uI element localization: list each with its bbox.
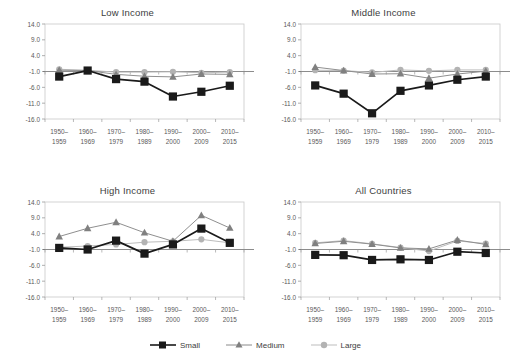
x-axis-tick-label: 2000– [448, 306, 466, 313]
y-axis-tick-label: -11.0 [282, 278, 297, 285]
data-point [198, 211, 205, 218]
data-point [425, 81, 433, 89]
x-axis-tick-label: 2009 [450, 138, 465, 145]
data-point [426, 68, 432, 74]
y-axis-tick-label: 4.0 [31, 230, 40, 237]
y-axis-tick-label: -11.0 [282, 100, 297, 107]
panel-middle-income: Middle Income 14.09.04.0-1.0-6.0-11.0-16… [256, 2, 511, 174]
x-axis-tick-label: 1960– [79, 128, 97, 135]
x-axis-tick-label: 1980– [136, 306, 154, 313]
x-axis-tick-label: 2000 [166, 316, 181, 323]
plot-area: 14.09.04.0-1.0-6.0-11.0-16.01950–1959196… [256, 180, 511, 352]
x-axis-tick-label: 1959 [52, 138, 67, 145]
data-point [311, 81, 319, 89]
y-axis-tick-label: -16.0 [25, 116, 40, 123]
y-axis-tick-label: 9.0 [287, 36, 296, 43]
chart-legend: Small Medium Large [0, 334, 511, 356]
x-axis-tick-label: 1979 [365, 138, 380, 145]
x-axis-tick-label: 2000– [448, 128, 466, 135]
x-axis-tick-label: 1980– [392, 128, 410, 135]
x-axis-tick-label: 1989 [137, 138, 152, 145]
x-axis-tick-label: 1990– [420, 306, 438, 313]
data-point [112, 75, 120, 83]
data-point [197, 225, 205, 233]
y-axis-tick-label: 14.0 [284, 199, 297, 206]
x-axis-tick-label: 1970– [107, 306, 125, 313]
legend-marker-triangle-icon [226, 340, 252, 350]
y-axis-tick-label: -6.0 [285, 84, 296, 91]
x-axis-tick-label: 1979 [109, 316, 124, 323]
y-axis-tick-label: -1.0 [29, 246, 40, 253]
data-point [482, 249, 490, 257]
y-axis-tick-label: -11.0 [26, 100, 41, 107]
data-point [453, 248, 461, 256]
x-axis-tick-label: 1990– [164, 128, 182, 135]
panel-low-income: Low Income 14.09.04.0-1.0-6.0-11.0-16.01… [0, 2, 255, 174]
x-axis-tick-label: 1990– [164, 306, 182, 313]
y-axis-tick-label: -16.0 [281, 294, 296, 301]
data-point [311, 63, 318, 70]
y-axis-tick-label: 14.0 [284, 21, 297, 28]
series-small [311, 72, 490, 117]
x-axis-tick-label: 2000 [166, 138, 181, 145]
x-axis-tick-label: 1970– [363, 306, 381, 313]
x-axis-tick-label: 2015 [223, 138, 238, 145]
x-axis-tick-label: 1980– [392, 306, 410, 313]
legend-label-medium: Medium [256, 341, 284, 350]
y-axis-tick-label: -6.0 [285, 262, 296, 269]
x-axis-tick-label: 1969 [337, 316, 352, 323]
y-axis-tick-label: 14.0 [28, 199, 41, 206]
data-point [368, 256, 376, 264]
x-axis-tick-label: 1969 [81, 138, 96, 145]
x-axis-tick-label: 2015 [223, 316, 238, 323]
y-axis-tick-label: -16.0 [281, 116, 296, 123]
x-axis-tick-label: 2000– [192, 306, 210, 313]
x-axis-tick-label: 1970– [363, 128, 381, 135]
x-axis-tick-label: 2000 [422, 316, 437, 323]
x-axis-tick-label: 1989 [137, 316, 152, 323]
data-point [226, 239, 234, 247]
x-axis-tick-label: 1950– [50, 306, 68, 313]
plot-area: 14.09.04.0-1.0-6.0-11.0-16.01950–1959196… [0, 2, 255, 174]
data-point [425, 256, 433, 264]
x-axis-tick-label: 2009 [450, 316, 465, 323]
y-axis-tick-label: -16.0 [25, 294, 40, 301]
legend-label-large: Large [341, 341, 361, 350]
x-axis-tick-label: 1970– [107, 128, 125, 135]
x-axis-tick-label: 2009 [194, 316, 209, 323]
y-axis-tick-label: -1.0 [285, 246, 296, 253]
chart-figure: Low Income 14.09.04.0-1.0-6.0-11.0-16.01… [0, 0, 511, 356]
y-axis-tick-label: 9.0 [31, 36, 40, 43]
x-axis-tick-label: 2015 [479, 138, 494, 145]
x-axis-tick-label: 1979 [109, 138, 124, 145]
data-point [169, 92, 177, 100]
x-axis-tick-label: 1960– [335, 128, 353, 135]
y-axis-tick-label: 9.0 [287, 214, 296, 221]
data-point [169, 240, 177, 248]
legend-entry-medium: Medium [226, 340, 284, 350]
x-axis-tick-label: 1960– [335, 306, 353, 313]
y-axis-tick-label: 9.0 [31, 214, 40, 221]
data-point [84, 66, 92, 74]
data-point [140, 250, 148, 258]
data-point [453, 76, 461, 84]
x-axis-tick-label: 1959 [52, 316, 67, 323]
data-point [340, 251, 348, 259]
y-axis-tick-label: -11.0 [26, 278, 41, 285]
x-axis-tick-label: 2000 [422, 138, 437, 145]
x-axis-tick-label: 1989 [393, 138, 408, 145]
panel-all-countries: All Countries 14.09.04.0-1.0-6.0-11.0-16… [256, 180, 511, 352]
data-point [112, 218, 119, 225]
data-point [198, 236, 204, 242]
data-point [311, 251, 319, 259]
y-axis-tick-label: -6.0 [29, 262, 40, 269]
x-axis-tick-label: 1959 [308, 138, 323, 145]
x-axis-tick-label: 1989 [393, 316, 408, 323]
data-point [140, 78, 148, 86]
data-point [141, 239, 147, 245]
x-axis-tick-label: 2010– [477, 128, 495, 135]
data-point [482, 72, 490, 80]
data-point [226, 82, 234, 90]
x-axis-tick-label: 1980– [136, 128, 154, 135]
y-axis-tick-label: 14.0 [28, 21, 41, 28]
